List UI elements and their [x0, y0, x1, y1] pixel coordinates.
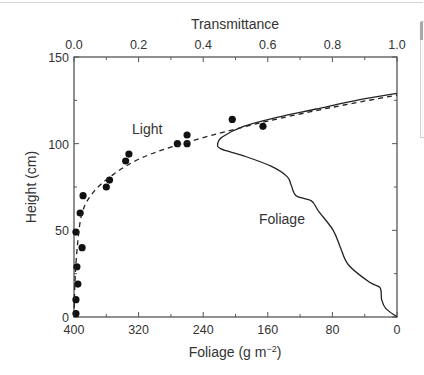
light-data-point — [72, 296, 79, 303]
bottom-tick-label: 160 — [257, 323, 278, 337]
light-data-point — [79, 192, 86, 199]
annotation-foliage: Foliage — [259, 211, 305, 227]
light-data-point — [106, 176, 113, 183]
top-tick-label: 0.0 — [65, 38, 82, 52]
annotation-light: Light — [132, 121, 162, 137]
bottom-tick-label: 80 — [325, 323, 339, 337]
bottom-tick-label: 320 — [128, 323, 149, 337]
top-tick-label: 1.0 — [388, 38, 405, 52]
top-axis-title: Transmittance — [191, 16, 279, 32]
bottom-tick-label: 240 — [193, 323, 214, 337]
light-data-point — [103, 183, 110, 190]
bottom-tick-label: 0 — [394, 323, 401, 337]
light-data-point — [259, 123, 266, 130]
left-tick-label: 100 — [48, 138, 69, 152]
top-tick-label: 0.4 — [195, 38, 212, 52]
left-tick-label: 0 — [62, 311, 69, 325]
light-data-point — [174, 140, 181, 147]
light-data-point — [229, 116, 236, 123]
light-data-point — [122, 157, 129, 164]
top-tick-label: 0.8 — [324, 38, 341, 52]
plot-frame — [74, 57, 397, 317]
series-layer — [72, 93, 397, 317]
top-tick-label: 0.2 — [130, 38, 147, 52]
light-data-point — [73, 263, 80, 270]
light-model-curve — [74, 95, 397, 317]
bottom-axis-title: Foliage (g m−2) — [189, 344, 282, 360]
left-tick-label: 150 — [48, 51, 69, 65]
bottom-tick-label: 400 — [64, 323, 85, 337]
light-data-point — [77, 209, 84, 216]
left-axis-title: Height (cm) — [23, 151, 39, 223]
foliage-curve — [217, 93, 397, 317]
light-data-point — [183, 131, 190, 138]
axes: 0.00.20.40.60.81.04003202401608000501001… — [48, 38, 406, 337]
light-data-point — [78, 244, 85, 251]
top-tick-label: 0.6 — [259, 38, 276, 52]
left-tick-label: 50 — [55, 224, 69, 238]
light-data-point — [125, 150, 132, 157]
